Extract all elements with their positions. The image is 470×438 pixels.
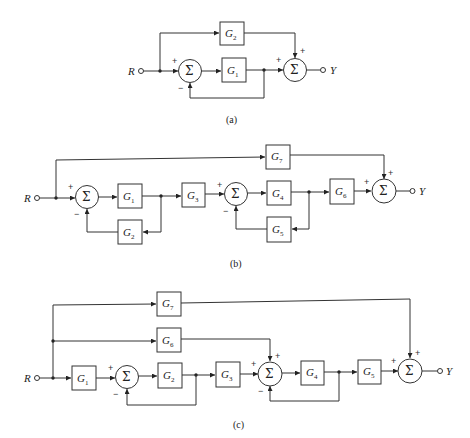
caption-a: (a) bbox=[226, 114, 237, 126]
svg-text:+: + bbox=[68, 182, 73, 192]
caption-c: (c) bbox=[233, 419, 244, 431]
svg-text:Σ: Σ bbox=[82, 190, 90, 204]
output-label: Y bbox=[330, 64, 338, 76]
svg-text:−: − bbox=[258, 386, 263, 396]
block-diagrams: R G2 Σ + − G1 Σ + + Y (a) R bbox=[0, 0, 470, 438]
svg-text:−: − bbox=[178, 83, 183, 93]
svg-text:+: + bbox=[108, 363, 113, 373]
input-terminal bbox=[139, 69, 144, 74]
input-terminal bbox=[35, 196, 40, 201]
svg-text:+: + bbox=[415, 348, 420, 358]
svg-text:Y: Y bbox=[419, 185, 427, 197]
diagram-c: R G7 G6 G1 Σ + − G2 G3 Σ + + bbox=[23, 292, 454, 431]
svg-text:Σ: Σ bbox=[231, 187, 239, 201]
input-terminal bbox=[35, 376, 40, 381]
caption-b: (b) bbox=[230, 258, 242, 270]
svg-text:Σ: Σ bbox=[290, 63, 298, 77]
svg-text:−: − bbox=[113, 389, 118, 399]
svg-text:+: + bbox=[251, 359, 256, 369]
svg-text:+: + bbox=[172, 56, 177, 66]
svg-text:+: + bbox=[388, 168, 393, 178]
svg-text:Σ: Σ bbox=[265, 367, 273, 381]
output-terminal bbox=[438, 369, 443, 374]
diagram-a: R G2 Σ + − G1 Σ + + Y (a) bbox=[127, 22, 338, 126]
svg-text:+: + bbox=[300, 46, 305, 56]
svg-text:−: − bbox=[74, 209, 79, 219]
svg-text:Σ: Σ bbox=[379, 184, 387, 198]
svg-text:+: + bbox=[364, 177, 369, 187]
pickoff-point bbox=[51, 339, 54, 342]
svg-text:+: + bbox=[276, 55, 281, 65]
output-terminal bbox=[321, 68, 326, 73]
output-terminal bbox=[410, 189, 415, 194]
svg-text:Σ: Σ bbox=[122, 370, 130, 384]
svg-text:Y: Y bbox=[446, 365, 454, 377]
svg-text:−: − bbox=[223, 206, 228, 216]
input-label: R bbox=[127, 65, 135, 77]
svg-text:R: R bbox=[23, 192, 31, 204]
svg-text:R: R bbox=[23, 372, 31, 384]
svg-text:Σ: Σ bbox=[405, 364, 413, 378]
svg-text:+: + bbox=[391, 356, 396, 366]
diagram-b: R G7 Σ + − G1 G2 G3 Σ + − G4 bbox=[23, 145, 427, 270]
sigma-symbol: Σ bbox=[185, 64, 193, 78]
svg-text:+: + bbox=[217, 180, 222, 190]
svg-text:+: + bbox=[275, 351, 280, 361]
